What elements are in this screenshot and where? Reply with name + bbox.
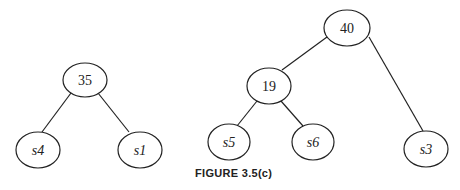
node-s3: s3 bbox=[404, 131, 448, 167]
edge-19-s6 bbox=[281, 101, 303, 126]
node-40: 40 bbox=[324, 10, 370, 46]
edge-40-s3 bbox=[369, 37, 423, 131]
edge-35-s1 bbox=[98, 93, 129, 132]
node-35: 35 bbox=[63, 63, 107, 97]
node-s5-label: s5 bbox=[223, 135, 235, 150]
edge-40-19 bbox=[282, 37, 327, 70]
node-s5: s5 bbox=[208, 124, 250, 160]
node-s1: s1 bbox=[118, 132, 162, 168]
node-19: 19 bbox=[247, 68, 291, 104]
node-19-label: 19 bbox=[262, 79, 276, 94]
figure-caption: FIGURE 3.5(c) bbox=[195, 167, 272, 179]
edge-19-s5 bbox=[237, 101, 257, 126]
node-s6: s6 bbox=[292, 124, 334, 160]
tree-diagram: 35 s4 s1 40 19 s5 s6 s3 bbox=[0, 0, 460, 190]
edge-35-s4 bbox=[42, 93, 71, 132]
node-s6-label: s6 bbox=[307, 135, 319, 150]
node-35-label: 35 bbox=[78, 73, 92, 88]
node-s3-label: s3 bbox=[420, 142, 432, 157]
node-s1-label: s1 bbox=[134, 143, 146, 158]
node-40-label: 40 bbox=[340, 21, 354, 36]
node-s4: s4 bbox=[16, 132, 60, 168]
node-s4-label: s4 bbox=[32, 143, 44, 158]
